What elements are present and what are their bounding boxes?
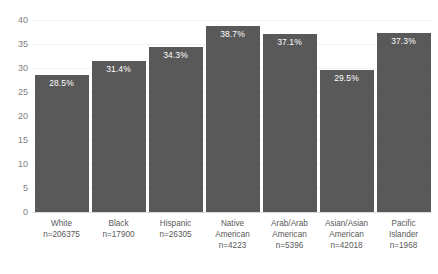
y-axis-tick-label: 10 <box>0 160 28 169</box>
gridline <box>33 212 432 213</box>
x-axis-sample-size: n=4223 <box>204 240 261 251</box>
bar-slot: 38.7% <box>204 20 261 212</box>
y-axis-tick-label: 5 <box>0 184 28 193</box>
y-axis-tick-label: 25 <box>0 88 28 97</box>
y-axis-tick-label: 30 <box>0 64 28 73</box>
x-axis-tick-label: Blackn=17900 <box>90 216 147 272</box>
y-axis-tick-label: 20 <box>0 112 28 121</box>
x-axis-category-name: Arab/Arab American <box>261 218 318 240</box>
bar[interactable]: 28.5% <box>35 75 89 212</box>
x-axis-sample-size: n=26305 <box>147 229 204 240</box>
y-axis-tick-label: 0 <box>0 208 28 217</box>
x-axis-tick-label: Hispanicn=26305 <box>147 216 204 272</box>
bar-slot: 37.1% <box>261 20 318 212</box>
bar-slot: 34.3% <box>147 20 204 212</box>
bar-slot: 37.3% <box>375 20 432 212</box>
bar[interactable]: 37.3% <box>377 33 431 212</box>
y-axis-tick-label: 35 <box>0 40 28 49</box>
bar-value-label: 29.5% <box>320 73 374 83</box>
bar[interactable]: 31.4% <box>92 61 146 212</box>
x-axis-tick-label: Asian/Asian Americann=42018 <box>318 216 375 272</box>
bar-slot: 29.5% <box>318 20 375 212</box>
plot-area: 28.5%31.4%34.3%38.7%37.1%29.5%37.3% <box>33 20 432 212</box>
x-axis-tick-label: Arab/Arab Americann=5396 <box>261 216 318 272</box>
x-axis-sample-size: n=206375 <box>33 229 90 240</box>
bar-slot: 31.4% <box>90 20 147 212</box>
x-axis: Whiten=206375Blackn=17900Hispanicn=26305… <box>33 216 432 272</box>
x-axis-category-name: Pacific Islander <box>375 218 432 240</box>
bar[interactable]: 29.5% <box>320 70 374 212</box>
bar-value-label: 34.3% <box>149 50 203 60</box>
bar-value-label: 28.5% <box>35 78 89 88</box>
x-axis-category-name: Black <box>90 218 147 229</box>
y-axis-tick-label: 40 <box>0 16 28 25</box>
x-axis-tick-label: Whiten=206375 <box>33 216 90 272</box>
bar-value-label: 31.4% <box>92 64 146 74</box>
x-axis-category-name: Native American <box>204 218 261 240</box>
y-axis: 0510152025303540 <box>0 20 28 212</box>
x-axis-category-name: Asian/Asian American <box>318 218 375 240</box>
x-axis-sample-size: n=5396 <box>261 240 318 251</box>
bars-layer: 28.5%31.4%34.3%38.7%37.1%29.5%37.3% <box>33 20 432 212</box>
bar-value-label: 38.7% <box>206 29 260 39</box>
bar-chart: 0510152025303540 28.5%31.4%34.3%38.7%37.… <box>0 0 438 274</box>
y-axis-tick-label: 15 <box>0 136 28 145</box>
x-axis-tick-label: Native Americann=4223 <box>204 216 261 272</box>
bar-value-label: 37.1% <box>263 37 317 47</box>
x-axis-category-name: Hispanic <box>147 218 204 229</box>
x-axis-sample-size: n=1968 <box>375 240 432 251</box>
x-axis-sample-size: n=42018 <box>318 240 375 251</box>
bar[interactable]: 34.3% <box>149 47 203 212</box>
x-axis-tick-label: Pacific Islandern=1968 <box>375 216 432 272</box>
bar-slot: 28.5% <box>33 20 90 212</box>
bar[interactable]: 38.7% <box>206 26 260 212</box>
x-axis-sample-size: n=17900 <box>90 229 147 240</box>
bar-value-label: 37.3% <box>377 36 431 46</box>
bar[interactable]: 37.1% <box>263 34 317 212</box>
x-axis-category-name: White <box>33 218 90 229</box>
